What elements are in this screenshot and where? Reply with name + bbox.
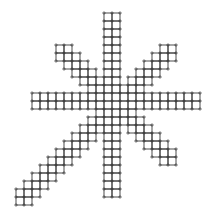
figure-cell: [80, 101, 88, 109]
figure-cell: [112, 21, 120, 29]
figure-cell: [64, 61, 72, 69]
figure-cell: [136, 93, 144, 101]
figure-cell: [88, 117, 96, 125]
figure-cell: [112, 85, 120, 93]
figure-cell: [96, 117, 104, 125]
figure-cell: [152, 141, 160, 149]
figure-cell: [40, 181, 48, 189]
figure-cell: [104, 93, 112, 101]
figure-cell: [24, 181, 32, 189]
figure-cell: [112, 37, 120, 45]
figure-cell: [80, 77, 88, 85]
figure-cell: [88, 101, 96, 109]
figure-cell: [32, 101, 40, 109]
figure-cell: [40, 93, 48, 101]
figure-cell: [40, 101, 48, 109]
figure-cell: [152, 93, 160, 101]
figure-cell: [112, 141, 120, 149]
figure-cell: [112, 93, 120, 101]
figure-cell: [16, 189, 24, 197]
figure-cell: [32, 93, 40, 101]
figure-cell: [168, 53, 176, 61]
figure-cell: [128, 93, 136, 101]
figure-canvas: Eight-armed square-cell asterisk figure …: [0, 0, 216, 223]
figure-cell: [40, 165, 48, 173]
figure-cell: [56, 149, 64, 157]
figure-cell: [112, 77, 120, 85]
figure-cell: [104, 181, 112, 189]
figure-cell: [80, 133, 88, 141]
figure-cell: [104, 77, 112, 85]
figure-cell: [72, 133, 80, 141]
figure-cell: [112, 53, 120, 61]
figure-cell: [136, 125, 144, 133]
figure-cell: [168, 101, 176, 109]
figure-cell: [128, 101, 136, 109]
figure-cell: [160, 61, 168, 69]
figure-cell: [136, 117, 144, 125]
figure-cell: [152, 61, 160, 69]
figure-cell: [112, 149, 120, 157]
figure-cell: [104, 61, 112, 69]
figure-cell: [112, 117, 120, 125]
figure-cell: [104, 125, 112, 133]
figure-cell: [72, 69, 80, 77]
figure-cell: [168, 93, 176, 101]
figure-cell: [104, 37, 112, 45]
figure-cell: [144, 141, 152, 149]
figure-cell: [104, 21, 112, 29]
figure-cell: [136, 101, 144, 109]
figure-cell: [160, 141, 168, 149]
figure-cell: [56, 165, 64, 173]
figure-cell: [112, 181, 120, 189]
figure-cell: [40, 173, 48, 181]
figure-cell: [112, 101, 120, 109]
figure-cell: [64, 157, 72, 165]
figure-cell: [104, 45, 112, 53]
figure-cell: [112, 45, 120, 53]
figure-cell: [112, 125, 120, 133]
figure-cell: [128, 117, 136, 125]
figure-cell: [48, 93, 56, 101]
figure-cell: [144, 61, 152, 69]
figure-cell: [64, 101, 72, 109]
figure-cell: [112, 133, 120, 141]
figure-cell: [72, 149, 80, 157]
figure-cell: [104, 13, 112, 21]
figure-cell: [120, 85, 128, 93]
figure-cell: [104, 189, 112, 197]
figure-cell: [128, 77, 136, 85]
figure-cell: [104, 53, 112, 61]
figure-cell: [184, 93, 192, 101]
figure-cell: [120, 117, 128, 125]
figure-cell: [152, 53, 160, 61]
figure-cell: [56, 101, 64, 109]
figure-cell: [152, 133, 160, 141]
figure-cell: [104, 69, 112, 77]
figure-cell: [96, 77, 104, 85]
figure-cell: [88, 133, 96, 141]
figure-cell: [104, 101, 112, 109]
figure-cell: [104, 29, 112, 37]
figure-cell: [64, 45, 72, 53]
figure-cell: [120, 101, 128, 109]
figure-cell: [104, 133, 112, 141]
figure-cell: [128, 109, 136, 117]
figure-cell: [112, 13, 120, 21]
figure-cell: [96, 109, 104, 117]
figure-cell: [48, 101, 56, 109]
figure-cell: [24, 189, 32, 197]
figure-cell: [104, 85, 112, 93]
figure-cell: [48, 173, 56, 181]
figure-cell: [88, 125, 96, 133]
figure-cell: [160, 157, 168, 165]
figure-cell: [152, 69, 160, 77]
figure-cell: [160, 101, 168, 109]
figure-cell: [160, 93, 168, 101]
figure-cell: [104, 165, 112, 173]
figure-cell: [72, 61, 80, 69]
figure-cell: [160, 149, 168, 157]
figure-cell: [96, 85, 104, 93]
figure-cell: [104, 157, 112, 165]
figure-cell: [88, 85, 96, 93]
